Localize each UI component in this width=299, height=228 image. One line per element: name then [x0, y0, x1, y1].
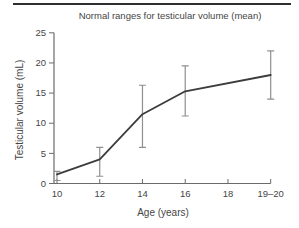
y-tick-label: 0 — [41, 178, 46, 189]
y-tick-label: 25 — [35, 27, 46, 38]
y-tick-label: 15 — [35, 87, 46, 98]
y-tick-label: 10 — [35, 117, 46, 128]
x-tick-label: 10 — [52, 188, 63, 199]
plot-area: 0510152025101214161819–20 — [35, 27, 283, 199]
x-tick-label: 18 — [223, 188, 234, 199]
mean-line — [57, 75, 271, 174]
x-tick-label: 19–20 — [257, 188, 283, 199]
testicular-volume-chart: Normal ranges for testicular volume (mea… — [0, 0, 299, 228]
chart-title: Normal ranges for testicular volume (mea… — [79, 10, 262, 21]
x-tick-label: 12 — [94, 188, 105, 199]
x-tick-label: 14 — [137, 188, 148, 199]
x-tick-label: 16 — [180, 188, 191, 199]
x-axis-label: Age (years) — [137, 207, 189, 218]
y-tick-label: 5 — [41, 148, 46, 159]
axes-lines — [54, 33, 271, 184]
y-tick-label: 20 — [35, 57, 46, 68]
error-bar — [96, 147, 103, 176]
y-axis-label: Testicular volume (mL) — [14, 60, 25, 161]
